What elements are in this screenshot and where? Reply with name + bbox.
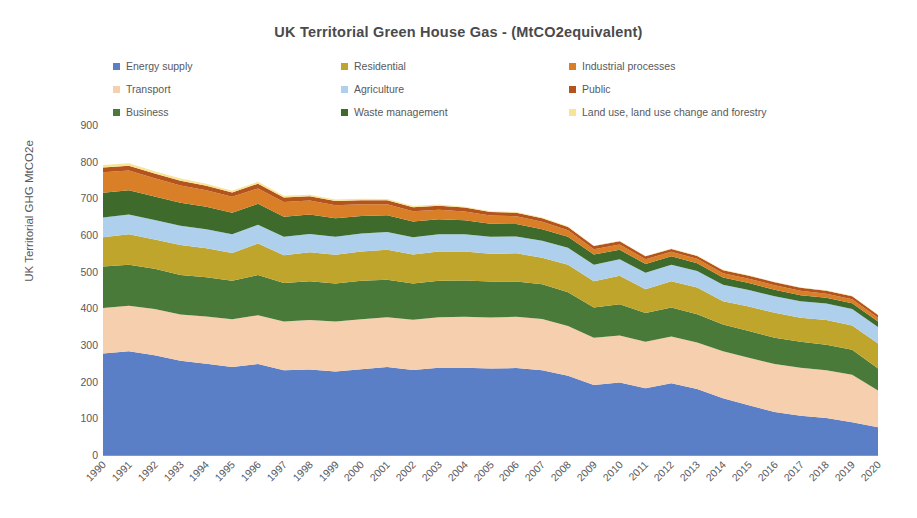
legend-item-label: Public (582, 84, 611, 95)
legend-swatch-icon (569, 86, 576, 93)
x-axis-tick-label: 2020 (859, 459, 883, 483)
legend-item-label: Land use, land use change and forestry (582, 107, 766, 118)
legend-item-label: Transport (126, 84, 171, 95)
x-axis-tick-label: 2017 (781, 459, 805, 483)
x-axis-tick-label: 2003 (420, 459, 444, 483)
y-axis-tick-label: 800 (52, 157, 98, 168)
y-axis-tick-label: 100 (52, 413, 98, 424)
legend-item[interactable]: Residential (341, 61, 569, 72)
legend-item-label: Industrial processes (582, 61, 675, 72)
x-axis-tick-label: 2012 (652, 459, 676, 483)
chart-legend: Energy supplyResidentialIndustrial proce… (113, 55, 873, 124)
legend-item[interactable]: Agriculture (341, 84, 569, 95)
x-axis-line (103, 455, 878, 456)
x-axis-tick-label: 2008 (549, 459, 573, 483)
legend-swatch-icon (341, 63, 348, 70)
y-axis-tick-label: 0 (52, 450, 98, 461)
x-axis-tick-label: 1994 (187, 459, 211, 483)
stacked-area-svg (103, 125, 878, 455)
y-axis-tick-label: 300 (52, 340, 98, 351)
legend-swatch-icon (341, 86, 348, 93)
legend-item-label: Residential (354, 61, 406, 72)
legend-swatch-icon (113, 63, 120, 70)
x-axis-tick-label: 2014 (704, 459, 728, 483)
x-axis-ticks: 1990199119921993199419951996199719981999… (103, 459, 878, 515)
x-axis-tick-label: 2019 (833, 459, 857, 483)
x-axis-tick-label: 2010 (600, 459, 624, 483)
x-axis-tick-label: 1992 (135, 459, 159, 483)
x-axis-tick-label: 1996 (239, 459, 263, 483)
y-axis-ticks: 9008007006005004003002001000 (48, 125, 98, 455)
x-axis-tick-label: 2013 (678, 459, 702, 483)
x-axis-tick-label: 1990 (84, 459, 108, 483)
x-axis-tick-label: 1993 (161, 459, 185, 483)
x-axis-tick-label: 2004 (445, 459, 469, 483)
x-axis-tick-label: 2006 (497, 459, 521, 483)
y-axis-tick-label: 600 (52, 230, 98, 241)
legend-item[interactable]: Public (569, 84, 869, 95)
x-axis-tick-label: 2002 (394, 459, 418, 483)
plot-area (103, 125, 878, 455)
legend-item-label: Business (126, 107, 169, 118)
x-axis-tick-label: 2018 (807, 459, 831, 483)
x-axis-tick-label: 2007 (523, 459, 547, 483)
legend-swatch-icon (569, 63, 576, 70)
chart-container: UK Territorial Green House Gas - (MtCO2e… (0, 0, 917, 518)
y-axis-tick-label: 200 (52, 377, 98, 388)
y-axis-tick-label: 400 (52, 303, 98, 314)
x-axis-tick-label: 1999 (316, 459, 340, 483)
legend-item[interactable]: Land use, land use change and forestry (569, 107, 869, 118)
x-axis-tick-label: 2015 (730, 459, 754, 483)
legend-swatch-icon (569, 109, 576, 116)
x-axis-tick-label: 2009 (575, 459, 599, 483)
legend-item-label: Waste management (354, 107, 448, 118)
x-axis-tick-label: 2001 (368, 459, 392, 483)
x-axis-tick-label: 1997 (265, 459, 289, 483)
y-axis-tick-label: 700 (52, 193, 98, 204)
legend-item-label: Energy supply (126, 61, 193, 72)
legend-item[interactable]: Waste management (341, 107, 569, 118)
x-axis-tick-label: 2016 (755, 459, 779, 483)
x-axis-tick-label: 2011 (626, 459, 649, 482)
legend-swatch-icon (113, 86, 120, 93)
chart-title: UK Territorial Green House Gas - (MtCO2e… (0, 24, 917, 40)
x-axis-tick-label: 2005 (471, 459, 495, 483)
legend-swatch-icon (341, 109, 348, 116)
legend-item[interactable]: Industrial processes (569, 61, 869, 72)
y-axis-tick-label: 900 (52, 120, 98, 131)
legend-item[interactable]: Energy supply (113, 61, 341, 72)
x-axis-tick-label: 1995 (213, 459, 237, 483)
legend-item-label: Agriculture (354, 84, 404, 95)
x-axis-tick-label: 1998 (290, 459, 314, 483)
y-axis-tick-label: 500 (52, 267, 98, 278)
y-axis-title: UK Territorial GHG MtCO2e (23, 96, 35, 326)
legend-item[interactable]: Transport (113, 84, 341, 95)
x-axis-tick-label: 1991 (110, 459, 134, 483)
x-axis-tick-label: 2000 (342, 459, 366, 483)
legend-swatch-icon (113, 109, 120, 116)
legend-item[interactable]: Business (113, 107, 341, 118)
